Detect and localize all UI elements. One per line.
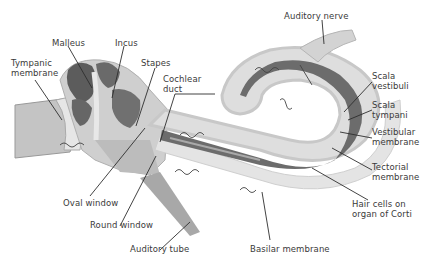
label-scala-vestibuli: Scala vestibuli bbox=[372, 72, 409, 91]
label-cochlear-duct: Cochlear duct bbox=[163, 75, 201, 94]
label-hair-cells: Hair cells on organ of Corti bbox=[352, 200, 412, 219]
label-incus: Incus bbox=[115, 39, 138, 49]
label-malleus: Malleus bbox=[52, 39, 85, 49]
malleus-handle bbox=[94, 72, 97, 140]
label-round-window: Round window bbox=[90, 221, 153, 231]
label-auditory-tube: Auditory tube bbox=[130, 245, 189, 255]
label-tympanic-membrane: Tympanic membrane bbox=[11, 59, 58, 78]
ear-anatomy-diagram: Malleus Incus Tympanic membrane Stapes C… bbox=[0, 0, 428, 267]
label-scala-tympani: Scala tympani bbox=[372, 101, 408, 120]
label-basilar-membrane: Basilar membrane bbox=[250, 245, 330, 255]
label-stapes: Stapes bbox=[141, 59, 171, 69]
label-auditory-nerve: Auditory nerve bbox=[284, 12, 349, 22]
label-tectorial-membrane: Tectorial membrane bbox=[372, 163, 419, 182]
label-vestibular-membrane: Vestibular membrane bbox=[372, 128, 419, 147]
label-oval-window: Oval window bbox=[63, 199, 118, 209]
